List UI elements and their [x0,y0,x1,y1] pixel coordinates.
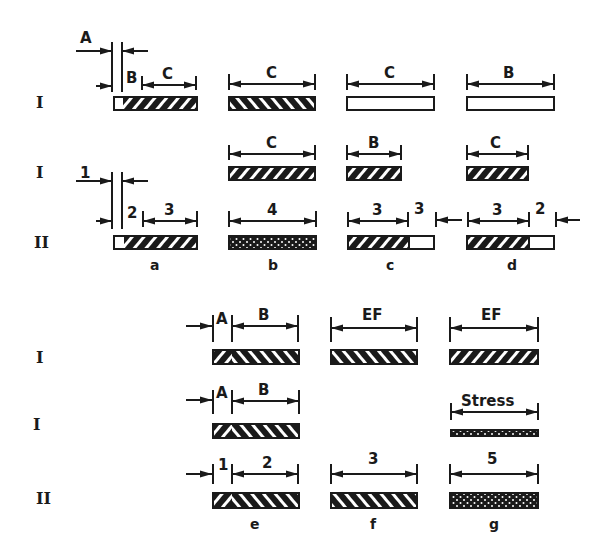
dim-label-2: 2 [262,454,272,472]
caption-g: g [489,516,499,532]
column-d: B C 3 2 d [467,64,580,273]
dim-label-C: C [162,65,173,83]
caption-c: c [386,257,394,273]
layer-bar [347,167,401,180]
caption-f: f [370,516,377,532]
layer-bar [229,236,316,249]
row-label-I-bottom-1: I [36,348,43,367]
layer-bar [229,167,315,180]
dim-label-A: A [216,384,228,402]
dim-label-3: 3 [368,450,378,468]
dim-label-A: A [216,310,228,328]
layer-bar [450,493,538,508]
dim-label-5: 5 [487,450,497,468]
dim-label-B: B [258,381,269,399]
layer-bar [114,97,197,110]
layer-bar [467,167,528,180]
row-label-II-top: II [34,233,49,252]
dim-label-C: C [266,64,277,82]
dim-label-3: 3 [372,201,382,219]
stress-layer-diagram: I I II A B C 1 2 3 a [0,0,607,560]
column-e: A B A B 1 2 e [186,306,299,532]
dim-label-side-3: 3 [414,200,424,218]
row-label-II-bottom: II [36,489,51,508]
column-f: EF 3 f [331,306,417,532]
column-b: C C 4 b [229,64,316,273]
caption-e: e [250,516,260,532]
layer-bar [331,350,417,364]
dim-label-EF: EF [481,306,502,324]
dim-label-A: A [80,29,92,47]
dim-label-2: 2 [127,204,137,222]
dim-label-3: 3 [164,201,174,219]
column-c: C B 3 3 c [347,64,462,273]
row-label-I-bottom-2: I [33,415,40,434]
dim-label-B: B [503,64,514,82]
layer-bar [347,97,434,110]
caption-a: a [150,257,159,273]
caption-b: b [268,257,278,273]
layer-bar [451,430,538,436]
dim-label-3: 3 [492,201,502,219]
layer-bar [467,97,554,110]
dim-label-B: B [368,134,379,152]
layer-bar [229,97,315,110]
dim-label-C: C [384,64,395,82]
dim-label-EF: EF [362,306,383,324]
dim-label-4: 4 [267,201,277,219]
row-label-I-top-2: I [36,163,43,182]
column-a: A B C 1 2 3 a [76,29,197,273]
layer-bar [114,236,197,249]
layer-bar [331,493,417,508]
dim-label-stress: Stress [461,392,514,410]
dim-label-side-2: 2 [535,200,545,218]
dim-label-B: B [258,306,269,324]
layer-bar [450,350,538,364]
dim-label-1: 1 [218,456,228,474]
dim-label-B: B [126,69,137,87]
dim-label-C: C [490,134,501,152]
column-g: EF Stress 5 g [450,306,538,532]
dim-label-1: 1 [80,164,90,182]
dim-label-C: C [266,134,277,152]
caption-d: d [507,257,517,273]
row-label-I-top-1: I [36,93,43,112]
